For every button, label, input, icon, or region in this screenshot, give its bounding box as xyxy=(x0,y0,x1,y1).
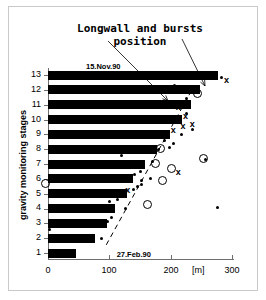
burst-dot-marker xyxy=(172,142,175,145)
y-tick-label-12: 12 xyxy=(22,84,41,94)
burst-dot-marker xyxy=(48,228,51,231)
burst-dot-marker xyxy=(139,170,142,173)
burst-dot-marker xyxy=(108,200,111,203)
bar-stage-1 xyxy=(48,249,76,258)
x-tick-label-0: 0 xyxy=(33,265,63,275)
burst-dot-marker xyxy=(133,173,136,176)
bar-stage-10 xyxy=(48,115,182,124)
burst-cross-marker: x xyxy=(176,104,181,111)
x-axis-line xyxy=(48,259,234,260)
burst-cross-marker: x xyxy=(224,77,229,84)
x-tick-200 xyxy=(171,255,172,260)
burst-circle-marker xyxy=(193,89,202,98)
bar-stage-4 xyxy=(48,204,115,213)
burst-cross-marker: x xyxy=(190,121,195,128)
x-axis-unit-label: [m] xyxy=(192,265,205,275)
burst-dot-marker xyxy=(151,149,154,152)
burst-dot-marker xyxy=(132,188,135,191)
y-tick-label-1: 1 xyxy=(22,247,41,257)
annotation-date-bottom: 27.Feb.90 xyxy=(117,250,151,259)
chart-figure: Longwall and bursts position gravity mon… xyxy=(0,0,266,300)
bar-stage-5 xyxy=(48,189,127,198)
burst-cross-marker: x xyxy=(181,123,186,130)
burst-cross-marker: x xyxy=(176,169,181,176)
burst-cross-marker: x xyxy=(171,127,176,134)
bar-stage-6 xyxy=(48,174,133,183)
bar-stage-11 xyxy=(48,100,191,109)
bar-stage-9 xyxy=(48,130,170,139)
burst-circle-marker xyxy=(199,154,208,163)
y-tick-label-10: 10 xyxy=(22,114,41,124)
bar-stage-3 xyxy=(48,219,107,228)
y-tick-label-5: 5 xyxy=(22,188,41,198)
burst-dot-marker xyxy=(93,191,96,194)
burst-dot-marker xyxy=(136,185,139,188)
bar-stage-2 xyxy=(48,234,95,243)
burst-circle-marker xyxy=(156,144,165,153)
burst-circle-marker xyxy=(151,159,160,168)
y-tick-label-4: 4 xyxy=(22,202,41,212)
burst-dot-marker xyxy=(199,74,202,77)
burst-cross-marker: x xyxy=(125,187,130,194)
x-tick-label-300: 300 xyxy=(217,265,247,275)
y-tick-label-13: 13 xyxy=(22,69,41,79)
y-tick-label-2: 2 xyxy=(22,232,41,242)
burst-dot-marker xyxy=(140,151,143,154)
x-tick-300 xyxy=(232,255,233,260)
burst-dot-marker xyxy=(163,139,166,142)
burst-dot-marker xyxy=(137,163,140,166)
bar-stage-13 xyxy=(48,71,218,80)
burst-dot-marker xyxy=(116,198,119,201)
y-tick-label-9: 9 xyxy=(22,128,41,138)
annotation-date-top: 15.Nov.90 xyxy=(86,62,120,71)
y-tick-label-3: 3 xyxy=(22,217,41,227)
x-tick-label-200: 200 xyxy=(156,265,186,275)
burst-dot-marker xyxy=(216,206,219,209)
bar-stage-12 xyxy=(48,85,200,94)
burst-dot-marker xyxy=(120,154,123,157)
bar-stage-7 xyxy=(48,160,145,169)
burst-dot-marker xyxy=(94,145,97,148)
burst-dot-marker xyxy=(140,179,143,182)
burst-cross-marker: x xyxy=(183,113,188,120)
burst-cross-marker: x xyxy=(124,175,129,182)
y-tick-label-7: 7 xyxy=(22,158,41,168)
chart-title: Longwall and bursts position xyxy=(55,22,225,48)
y-tick-label-8: 8 xyxy=(22,143,41,153)
y-tick-label-11: 11 xyxy=(22,99,41,109)
x-tick-label-100: 100 xyxy=(94,265,124,275)
y-tick-label-6: 6 xyxy=(22,173,41,183)
burst-dot-marker xyxy=(180,133,183,136)
x-tick-100 xyxy=(109,255,110,260)
burst-dot-marker xyxy=(186,103,189,106)
